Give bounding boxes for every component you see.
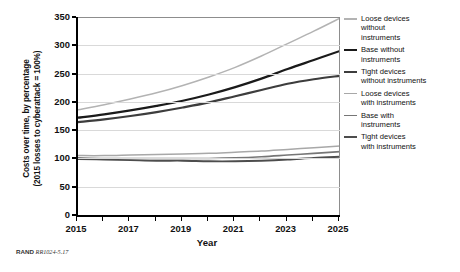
legend-item-4[interactable]: Base with instruments [344,111,460,130]
legend-swatch-icon-0 [344,18,357,20]
y-tick-label-200: 200 [44,97,70,107]
figure-source: RAND RR1024-5.17 [16,248,68,255]
x-tick-label-2019: 2019 [161,223,201,234]
x-tick-label-2023: 2023 [266,223,306,234]
y-tick-label-100: 100 [44,153,70,163]
y-axis-title: Costs over time, by percentage (2015 los… [22,14,43,224]
figure-source-number: RR1024-5.17 [36,248,69,255]
y-tick-label-150: 150 [44,125,70,135]
legend-label-2: Tight devices without instruments [361,67,426,86]
legend-item-3[interactable]: Loose devices with instruments [344,89,460,108]
y-tick-label-0: 0 [44,210,70,220]
plot-frame-right [339,17,340,215]
legend-swatch-icon-4 [344,115,357,117]
x-tick-mark-2016 [102,217,103,221]
legend-label-5: Tight devices with instruments [361,132,416,151]
y-tick-label-250: 250 [44,69,70,79]
gridline-150 [78,130,340,131]
x-tick-mark-2018 [155,217,156,221]
gridline-200 [78,102,340,103]
legend-swatch-icon-5 [344,136,357,138]
x-tick-mark-2022 [259,217,260,221]
plot-frame-top [78,17,340,18]
legend-item-1[interactable]: Base without instruments [344,45,460,64]
gridline-50 [78,187,340,188]
legend-label-1: Base without instruments [361,45,404,64]
series-lines [78,17,340,215]
x-tick-mark-2015 [76,217,77,221]
gridline-250 [78,74,340,75]
legend-item-5[interactable]: Tight devices with instruments [344,132,460,151]
x-tick-mark-2019 [181,217,182,221]
y-axis-title-line2: (2015 losses to cyberattack = 100%) [33,14,44,224]
x-tick-label-2017: 2017 [108,223,148,234]
x-tick-mark-2024 [312,217,313,221]
series-line-1 [78,51,340,118]
x-tick-label-2025: 2025 [318,223,358,234]
y-tick-label-300: 300 [44,40,70,50]
legend-label-4: Base with instruments [361,111,400,130]
y-axis-title-line1: Costs over time, by percentage [22,59,31,178]
x-axis-title: Year [76,237,338,248]
figure-container: Costs over time, by percentage (2015 los… [0,0,460,272]
gridline-100 [78,158,340,159]
legend-swatch-icon-1 [344,49,357,51]
plot-area [76,17,340,217]
figure-source-org: RAND [16,248,34,255]
legend-swatch-icon-3 [344,93,357,95]
legend-item-2[interactable]: Tight devices without instruments [344,67,460,86]
x-tick-label-2021: 2021 [213,223,253,234]
legend-item-0[interactable]: Loose devices without instruments [344,14,460,42]
x-tick-mark-2025 [338,217,339,221]
legend-label-0: Loose devices without instruments [361,14,410,42]
legend-label-3: Loose devices with instruments [361,89,416,108]
x-tick-mark-2020 [207,217,208,221]
gridline-300 [78,45,340,46]
x-tick-mark-2021 [233,217,234,221]
x-tick-mark-2017 [128,217,129,221]
x-tick-label-2015: 2015 [56,223,96,234]
y-tick-label-350: 350 [44,12,70,22]
chart-legend: Loose devices without instrumentsBase wi… [344,14,460,154]
y-tick-label-50: 50 [44,182,70,192]
series-line-2 [78,76,340,122]
legend-swatch-icon-2 [344,71,357,73]
x-tick-mark-2023 [286,217,287,221]
